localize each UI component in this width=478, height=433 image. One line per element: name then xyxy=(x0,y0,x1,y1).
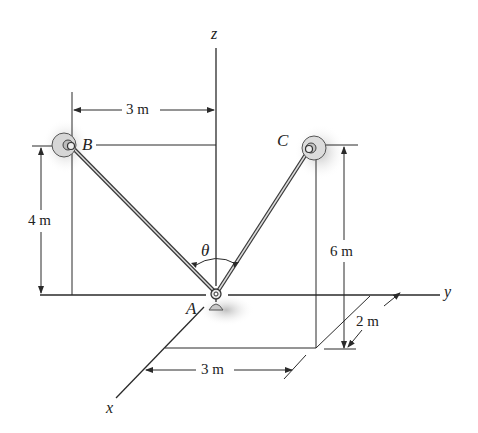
c-anchor xyxy=(302,136,326,160)
a-support-shadow xyxy=(198,294,254,326)
theta-label: θ xyxy=(201,242,209,259)
dim-line-c-offset-x xyxy=(348,330,362,347)
b-anchor xyxy=(52,133,76,157)
cable-ac xyxy=(218,148,310,291)
dim-label-c-height: 6 m xyxy=(328,244,355,259)
dim-tick-bottom xyxy=(284,355,306,379)
cable-ab xyxy=(70,145,214,291)
dim-label-b-height: 4 m xyxy=(26,213,53,228)
diagram-svg xyxy=(0,0,478,433)
dim-label-c-offset-x: 2 m xyxy=(354,314,381,329)
dim-label-b-offset: 3 m xyxy=(124,102,151,117)
point-a-label: A xyxy=(186,300,196,317)
dim-label-c-offset-y: 3 m xyxy=(199,362,226,377)
x-axis-label: x xyxy=(106,400,113,416)
x-axis xyxy=(116,307,204,398)
point-b-label: B xyxy=(82,136,92,153)
diagram-canvas: z y x B C A θ 3 m 4 m 6 m 2 m 3 m xyxy=(0,0,478,433)
z-axis-label: z xyxy=(211,26,217,42)
y-axis-label: y xyxy=(444,284,451,300)
point-c-label: C xyxy=(277,132,288,149)
